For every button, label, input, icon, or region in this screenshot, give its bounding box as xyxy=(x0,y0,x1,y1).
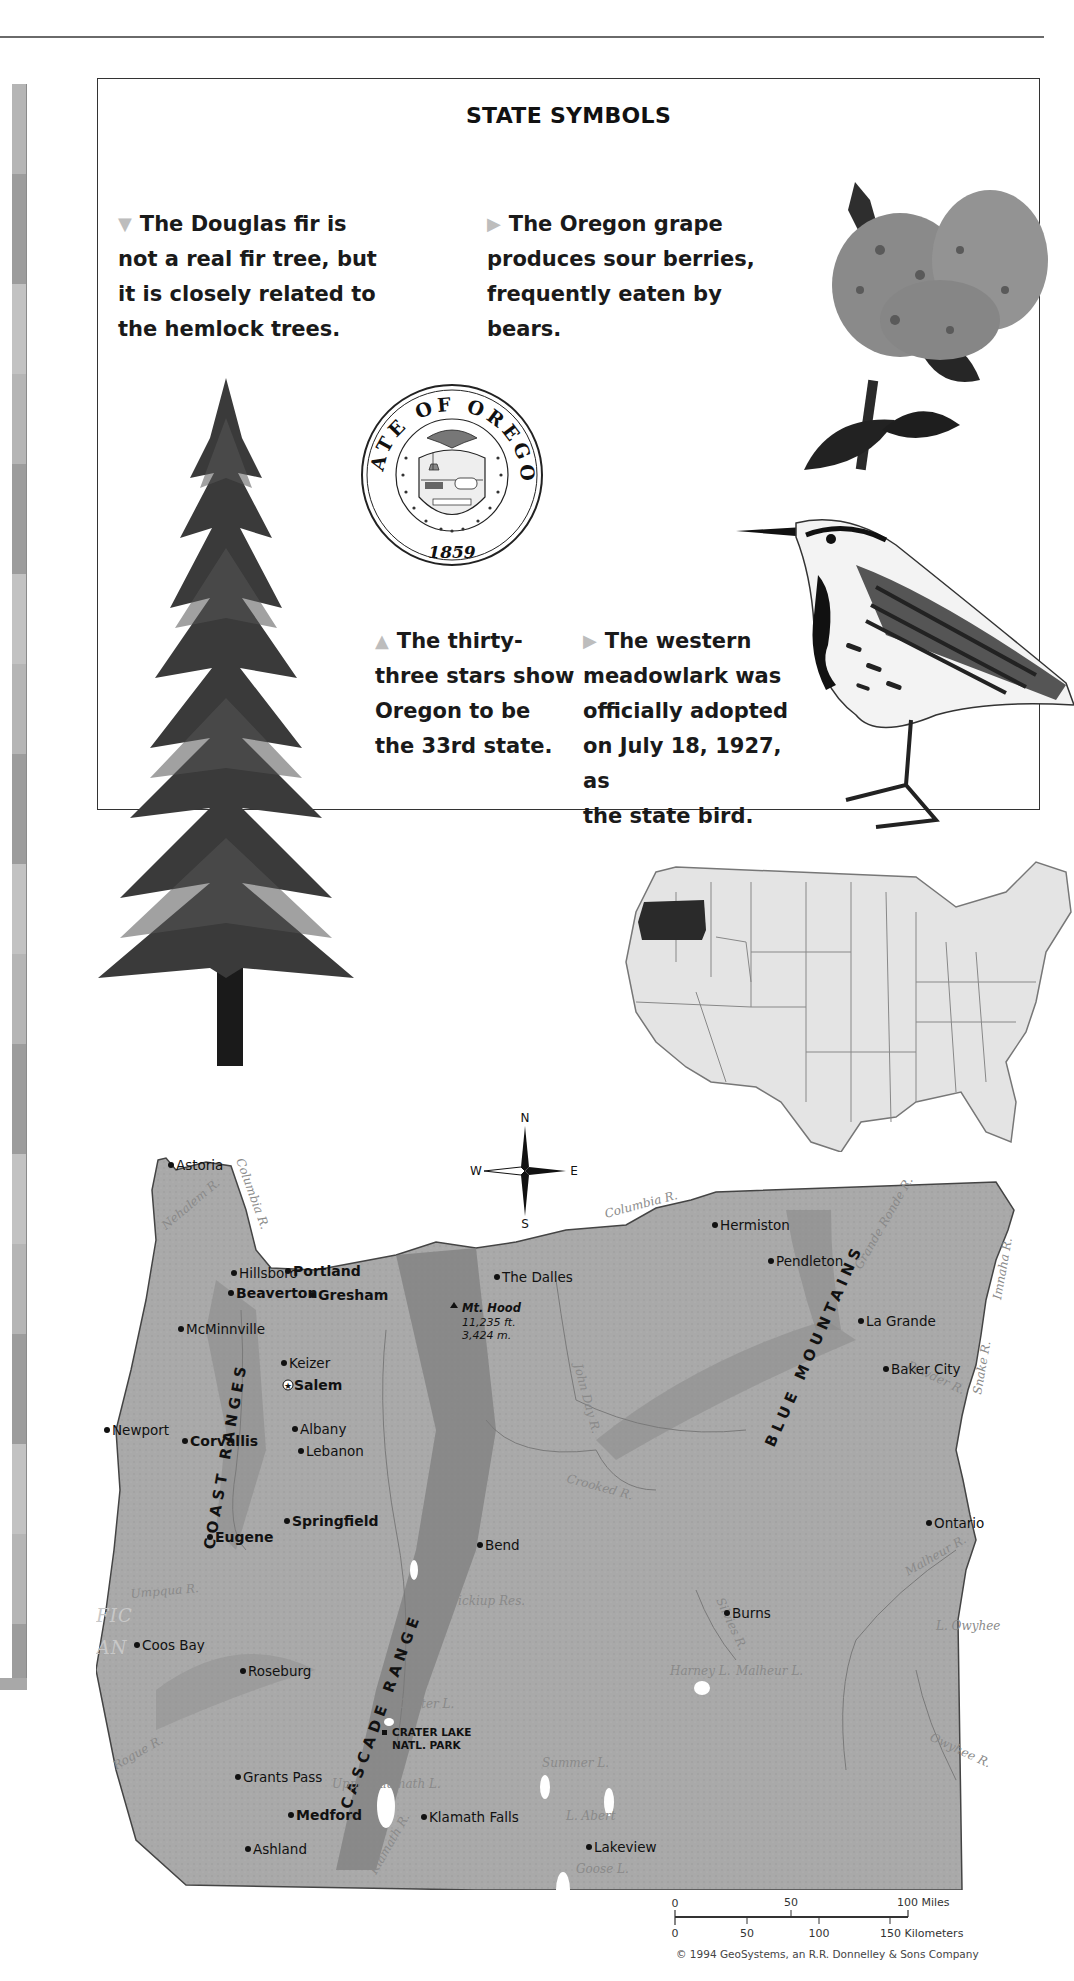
park-label: NATL. PARK xyxy=(392,1739,462,1751)
city-dot-icon xyxy=(284,1518,290,1524)
triangle-down-icon: ▼ xyxy=(118,206,132,241)
scale-tick: 100 Miles xyxy=(897,1896,950,1909)
city-dot-icon xyxy=(724,1610,730,1616)
fact-line: the hemlock trees. xyxy=(118,317,340,341)
city-marker: Albany xyxy=(292,1421,346,1437)
page-margin-strip-foot xyxy=(0,1678,27,1690)
city-dot-icon xyxy=(477,1542,483,1548)
city-label: Baker City xyxy=(891,1361,960,1377)
city-marker: Klamath Falls xyxy=(421,1809,519,1825)
city-label: Gresham xyxy=(318,1287,388,1303)
city-label: Grants Pass xyxy=(243,1769,322,1785)
city-dot-icon xyxy=(168,1162,174,1168)
fact-line: three stars show xyxy=(375,664,574,688)
city-marker: Baker City xyxy=(883,1361,960,1377)
city-label: Corvallis xyxy=(190,1433,258,1449)
park-label: CRATER LAKE xyxy=(392,1726,471,1738)
city-label: Portland xyxy=(293,1263,361,1279)
park-marker-icon xyxy=(382,1730,387,1735)
city-marker: Coos Bay xyxy=(134,1637,205,1653)
city-marker: Lebanon xyxy=(298,1443,364,1459)
ocean-label: OCEAN xyxy=(96,1637,128,1658)
city-marker: Roseburg xyxy=(240,1663,311,1679)
city-marker: Newport xyxy=(104,1422,169,1438)
city-marker: Pendleton xyxy=(768,1253,843,1269)
city-dot-icon xyxy=(883,1366,889,1372)
city-dot-icon xyxy=(310,1292,316,1298)
oregon-state-seal-icon: STATE OF OREGON 1859 xyxy=(359,382,545,568)
city-dot-icon xyxy=(281,1360,287,1366)
city-marker: Beaverton xyxy=(228,1285,317,1301)
scale-tick: 50 xyxy=(784,1896,798,1909)
fact-line: Oregon to be xyxy=(375,699,530,723)
city-marker: Corvallis xyxy=(182,1433,258,1449)
city-dot-icon xyxy=(207,1534,213,1540)
city-marker: La Grande xyxy=(858,1313,936,1329)
ocean-label: PACIFIC xyxy=(96,1605,133,1626)
city-label: Eugene xyxy=(215,1529,274,1545)
mountain-elevation-ft: 11,235 ft. xyxy=(462,1316,516,1329)
oregon-relief-map: PACIFIC OCEAN COAST RANGES CASCADE RANGE… xyxy=(96,1130,1020,1890)
fact-douglas-fir: ▼The Douglas fir is not a real fir tree,… xyxy=(118,206,378,347)
lake-label: Harney L. xyxy=(669,1664,731,1678)
scale-tick: 50 xyxy=(740,1927,754,1940)
lake-label: Summer L. xyxy=(542,1756,609,1770)
scale-bar: 0 50 100 Miles 0 50 100 150 Kilometers xyxy=(670,1895,970,1945)
city-dot-icon xyxy=(586,1844,592,1850)
city-label: Albany xyxy=(300,1421,346,1437)
city-marker: Eugene xyxy=(207,1529,274,1545)
city-dot-icon xyxy=(178,1326,184,1332)
fact-line: not a real fir tree, but xyxy=(118,247,377,271)
city-label: Bend xyxy=(485,1537,520,1553)
city-label: Astoria xyxy=(176,1157,223,1173)
fact-line: produces sour berries, xyxy=(487,247,755,271)
city-label: Hermiston xyxy=(720,1217,790,1233)
lake-label: Crater L. xyxy=(399,1697,454,1711)
fact-line: the state bird. xyxy=(583,804,753,828)
city-marker: McMinnville xyxy=(178,1321,265,1337)
city-label: The Dalles xyxy=(501,1269,573,1285)
city-label: Burns xyxy=(732,1605,771,1621)
city-label: Ontario xyxy=(934,1515,984,1531)
douglas-fir-illustration xyxy=(92,378,360,1066)
city-label: Ashland xyxy=(253,1841,307,1857)
city-dot-icon xyxy=(421,1814,427,1820)
city-marker: Springfield xyxy=(284,1513,379,1529)
fact-line: frequently eaten by bears. xyxy=(487,282,722,341)
lake-label: L. Owyhee xyxy=(935,1619,1000,1633)
city-dot-icon xyxy=(235,1774,241,1780)
triangle-up-icon: ▲ xyxy=(375,623,389,658)
us-locator-map xyxy=(616,852,1074,1152)
lake-label: L. Abert xyxy=(565,1809,616,1823)
lake-label: Goose L. xyxy=(576,1862,629,1876)
fact-line: The western xyxy=(605,629,752,653)
fact-line: The thirty- xyxy=(397,629,523,653)
top-rule xyxy=(0,36,1044,38)
city-marker: The Dalles xyxy=(494,1269,573,1285)
page-margin-strip xyxy=(12,84,27,1690)
city-marker: Grants Pass xyxy=(235,1769,322,1785)
lake-label: Malheur L. xyxy=(735,1664,803,1678)
city-marker: Lakeview xyxy=(586,1839,657,1855)
city-marker: Ashland xyxy=(245,1841,307,1857)
fact-line: The Douglas fir is xyxy=(140,212,347,236)
city-label: Lakeview xyxy=(594,1839,657,1855)
fact-oregon-grape: ▶The Oregon grape produces sour berries,… xyxy=(487,206,787,347)
city-label: Keizer xyxy=(289,1355,331,1371)
city-label: Newport xyxy=(112,1422,169,1438)
city-dot-icon xyxy=(182,1438,188,1444)
city-label: Roseburg xyxy=(248,1663,311,1679)
city-dot-icon xyxy=(285,1268,291,1274)
city-label: McMinnville xyxy=(186,1321,265,1337)
lake-label: Upper Klamath L. xyxy=(332,1777,441,1791)
mountain-label: Mt. Hood xyxy=(462,1301,522,1315)
city-marker: Keizer xyxy=(281,1355,331,1371)
city-dot-icon xyxy=(134,1642,140,1648)
fact-seal-stars: ▲The thirty- three stars show Oregon to … xyxy=(375,623,575,764)
city-dot-icon xyxy=(494,1274,500,1280)
city-dot-icon xyxy=(858,1318,864,1324)
city-label: La Grande xyxy=(866,1313,936,1329)
compass-n: N xyxy=(521,1112,530,1125)
fact-line: The Oregon grape xyxy=(509,212,723,236)
fact-line: it is closely related to xyxy=(118,282,376,306)
